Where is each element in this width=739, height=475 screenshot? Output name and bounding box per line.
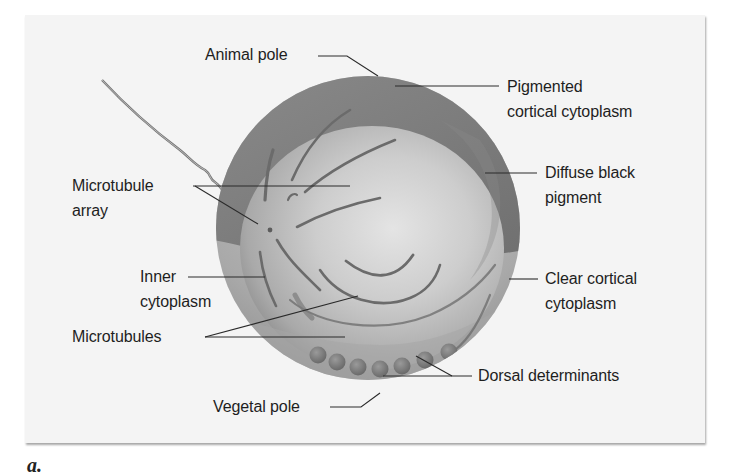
label-line-2: pigment — [545, 185, 635, 210]
label-line-2: cortical cytoplasm — [507, 99, 632, 124]
label-line-1: Microtubule — [72, 173, 154, 198]
label-line-2: cytoplasm — [545, 291, 637, 316]
label-vegetal-pole: Vegetal pole — [213, 394, 300, 419]
label-pigmented-cortical-cytoplasm: Pigmented cortical cytoplasm — [507, 74, 632, 124]
label-line-1: Clear cortical — [545, 266, 637, 291]
label-inner-cytoplasm: Inner cytoplasm — [140, 264, 211, 314]
label-line-2: array — [72, 198, 154, 223]
label-microtubules: Microtubules — [72, 324, 162, 349]
label-clear-cortical-cytoplasm: Clear cortical cytoplasm — [545, 266, 637, 316]
label-line-1: Pigmented — [507, 74, 632, 99]
egg-diagram — [0, 0, 739, 475]
label-line-2: cytoplasm — [140, 289, 211, 314]
panel-label: a. — [27, 454, 42, 475]
label-line-1: Diffuse black — [545, 160, 635, 185]
label-diffuse-black-pigment: Diffuse black pigment — [545, 160, 635, 210]
label-dorsal-determinants: Dorsal determinants — [478, 363, 619, 388]
label-line-1: Inner — [140, 264, 211, 289]
label-microtubule-array: Microtubule array — [72, 173, 154, 223]
label-animal-pole: Animal pole — [205, 42, 288, 67]
